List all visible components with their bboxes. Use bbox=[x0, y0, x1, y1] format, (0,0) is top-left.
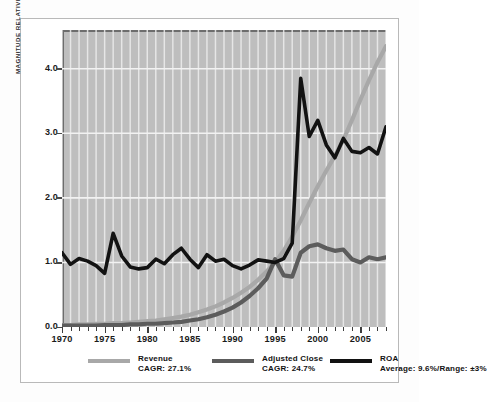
plot-area-wrapper bbox=[62, 30, 386, 327]
x-tick-mark bbox=[130, 327, 131, 331]
x-tick-mark bbox=[198, 327, 199, 331]
x-tick-mark bbox=[369, 327, 370, 331]
x-tick-mark bbox=[309, 327, 310, 331]
x-tick-mark bbox=[71, 327, 72, 331]
x-tick-mark bbox=[181, 327, 182, 331]
x-tick-label: 1980 bbox=[137, 334, 158, 344]
x-tick-mark bbox=[122, 327, 123, 331]
x-tick-mark bbox=[301, 327, 302, 331]
x-tick-mark-major bbox=[105, 327, 106, 333]
x-tick-mark-major bbox=[318, 327, 319, 333]
x-tick-label: 1995 bbox=[265, 334, 286, 344]
x-tick-mark-major bbox=[190, 327, 191, 333]
x-tick-mark-major bbox=[275, 327, 276, 333]
x-tick-mark bbox=[292, 327, 293, 331]
x-tick-mark bbox=[88, 327, 89, 331]
x-tick-mark bbox=[250, 327, 251, 331]
x-tick-label: 2000 bbox=[307, 334, 328, 344]
legend-swatch bbox=[88, 359, 130, 363]
legend-sublabel: Average: 9.6%/Range: ±3% bbox=[380, 364, 487, 373]
legend-sublabel: CAGR: 24.7% bbox=[262, 364, 315, 373]
x-tick-mark-major bbox=[62, 327, 63, 333]
x-tick-mark-major bbox=[147, 327, 148, 333]
x-tick-mark bbox=[139, 327, 140, 331]
legend-swatch bbox=[330, 359, 372, 363]
x-tick-mark bbox=[335, 327, 336, 331]
chart-legend: RevenueCAGR: 27.1%Adjusted CloseCAGR: 24… bbox=[62, 356, 398, 382]
x-tick-mark bbox=[386, 327, 387, 331]
x-tick-mark-major bbox=[233, 327, 234, 333]
x-tick-mark bbox=[173, 327, 174, 331]
y-axis: MAGNITUDE RELATIVE TO AVERAGE VALUE FOR … bbox=[20, 30, 62, 327]
x-tick-mark bbox=[377, 327, 378, 331]
x-tick-label: 1985 bbox=[179, 334, 200, 344]
y-axis-label: MAGNITUDE RELATIVE TO AVERAGE VALUE FOR … bbox=[14, 0, 21, 74]
x-tick-mark bbox=[207, 327, 208, 331]
x-tick-mark bbox=[326, 327, 327, 331]
legend-swatch bbox=[212, 359, 254, 363]
x-tick-mark bbox=[241, 327, 242, 331]
x-tick-mark bbox=[284, 327, 285, 331]
legend-label: Revenue bbox=[138, 354, 173, 363]
x-tick-mark bbox=[343, 327, 344, 331]
x-tick-mark bbox=[267, 327, 268, 331]
x-tick-label: 1970 bbox=[51, 334, 72, 344]
x-tick-mark-major bbox=[360, 327, 361, 333]
x-tick-label: 1990 bbox=[222, 334, 243, 344]
x-tick-mark bbox=[258, 327, 259, 331]
legend-label: Adjusted Close bbox=[262, 354, 323, 363]
legend-sublabel: CAGR: 27.1% bbox=[138, 364, 191, 373]
x-tick-mark bbox=[215, 327, 216, 331]
x-tick-label: 2005 bbox=[350, 334, 371, 344]
x-tick-mark bbox=[156, 327, 157, 331]
x-tick-label: 1975 bbox=[94, 334, 115, 344]
x-axis: 19701975198019851990199520002005 bbox=[62, 327, 386, 357]
x-tick-mark bbox=[113, 327, 114, 331]
plot-svg bbox=[62, 30, 386, 327]
x-tick-mark bbox=[224, 327, 225, 331]
x-tick-mark bbox=[352, 327, 353, 331]
x-tick-mark bbox=[96, 327, 97, 331]
legend-label: ROA bbox=[380, 354, 398, 363]
x-tick-mark bbox=[164, 327, 165, 331]
x-tick-mark bbox=[79, 327, 80, 331]
